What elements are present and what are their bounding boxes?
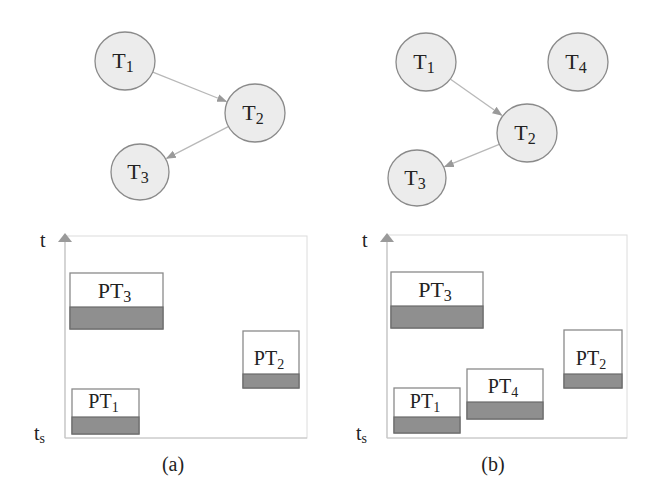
- dependency-arrow: [445, 144, 499, 166]
- block-pt2: PT2: [243, 331, 299, 388]
- task-graph-b: T1T4T2T3: [388, 33, 608, 206]
- processing-blocks-a: PT3PT2PT1: [70, 273, 299, 434]
- axis-label-ts: ts: [356, 422, 367, 446]
- processing-blocks-b: PT3PT2PT4PT1: [391, 272, 622, 433]
- block-pt3: PT3: [70, 273, 163, 329]
- task-node-t1: T1: [95, 32, 155, 90]
- axis-label-t: t: [362, 229, 368, 251]
- block-pt2: PT2: [564, 330, 622, 388]
- task-node-t1: T1: [396, 33, 456, 91]
- task-node-t2: T2: [497, 104, 557, 162]
- caption-a: (a): [162, 453, 184, 476]
- axis-label-t: t: [40, 229, 46, 251]
- axis-label-ts: ts: [34, 422, 45, 446]
- block-pt1: PT1: [394, 388, 460, 433]
- dependency-arrow: [167, 127, 229, 159]
- task-graph-a: T1T2T3: [95, 32, 285, 200]
- block-pt3: PT3: [391, 272, 483, 328]
- task-node-t4: T4: [548, 33, 608, 91]
- scheduling-diagram: T1T2T3 t ts PT3PT2PT1 (a) T1T4T2T3 t ts …: [0, 0, 651, 503]
- task-node-t3: T3: [388, 150, 446, 206]
- dependency-arrow: [153, 72, 226, 101]
- caption-b: (b): [481, 453, 504, 476]
- task-node-t2: T2: [225, 84, 285, 142]
- timeline-b: t ts PT3PT2PT4PT1: [356, 229, 627, 446]
- block-pt1: PT1: [72, 389, 139, 434]
- block-pt4: PT4: [467, 369, 543, 419]
- panel-a: T1T2T3 t ts PT3PT2PT1 (a): [34, 32, 307, 476]
- timeline-a: t ts PT3PT2PT1: [34, 229, 307, 446]
- task-node-t3: T3: [111, 144, 169, 200]
- panel-b: T1T4T2T3 t ts PT3PT2PT4PT1 (b): [356, 33, 627, 476]
- dependency-arrow: [451, 79, 502, 115]
